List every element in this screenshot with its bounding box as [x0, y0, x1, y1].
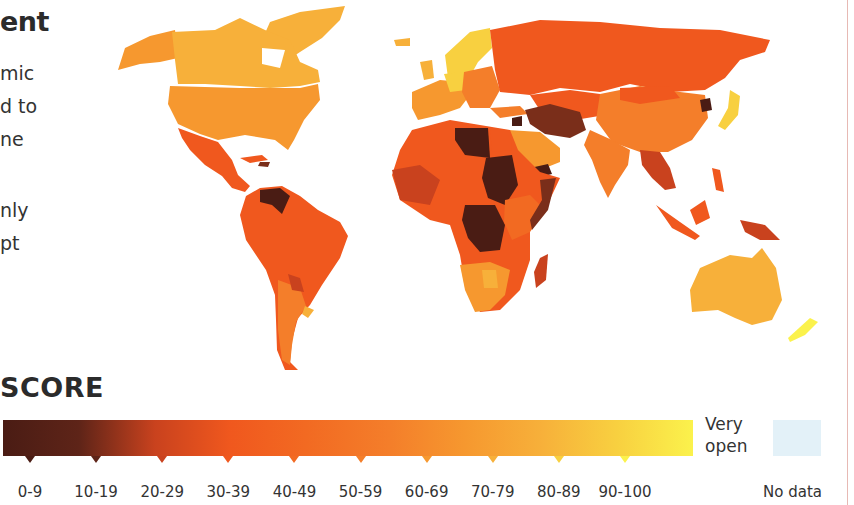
legend-band-label: 0-9 [18, 483, 43, 501]
legend-no-data-label: No data [763, 483, 822, 501]
legend-tick [25, 456, 35, 463]
legend-tick [356, 456, 366, 463]
world-map [0, 0, 854, 380]
legend-band-label: 60-69 [405, 483, 449, 501]
legend-band-label: 20-29 [140, 483, 184, 501]
region-turkey [490, 106, 528, 118]
region-botswana [482, 270, 498, 288]
legend-very-open-label: Very open [705, 413, 747, 457]
legend-band-label: 40-49 [273, 483, 317, 501]
legend-tick [620, 456, 630, 463]
region-philippines [712, 168, 724, 192]
legend-band-label: 80-89 [537, 483, 581, 501]
region-caribbean [240, 155, 268, 163]
region-egypt [490, 130, 512, 152]
region-madagascar [534, 254, 548, 288]
region-papua [740, 220, 780, 240]
legend-tick [223, 456, 233, 463]
region-southeast-asia [640, 150, 676, 190]
legend-tick [157, 456, 167, 463]
legend-band-label: 70-79 [471, 483, 515, 501]
legend-band-label: 50-59 [339, 483, 383, 501]
region-australia [690, 248, 782, 325]
legend-heading: SCORE [0, 372, 104, 403]
legend-tick [289, 456, 299, 463]
legend-tick [422, 456, 432, 463]
legend-band-label: 10-19 [74, 483, 118, 501]
region-new-zealand [788, 318, 818, 342]
region-alaska [118, 30, 178, 70]
page-edge-divider [847, 0, 848, 505]
region-north-korea [700, 98, 712, 112]
region-syria [512, 116, 522, 126]
legend-tick [488, 456, 498, 463]
region-borneo [690, 200, 710, 225]
legend-very-open-line1: Very [705, 413, 747, 435]
region-haiti [258, 162, 270, 167]
legend-no-data-swatch [773, 420, 821, 456]
region-eastern-europe [462, 66, 500, 108]
legend-band-label: 90-100 [598, 483, 651, 501]
region-uk [420, 60, 434, 80]
legend-band-label: 30-39 [207, 483, 251, 501]
legend-color-scale [3, 420, 693, 456]
legend-very-open-line2: open [705, 435, 747, 457]
region-japan [718, 90, 740, 130]
region-iceland [394, 38, 410, 46]
legend-tick [554, 456, 564, 463]
region-russia [490, 20, 770, 95]
legend-tick [91, 456, 101, 463]
